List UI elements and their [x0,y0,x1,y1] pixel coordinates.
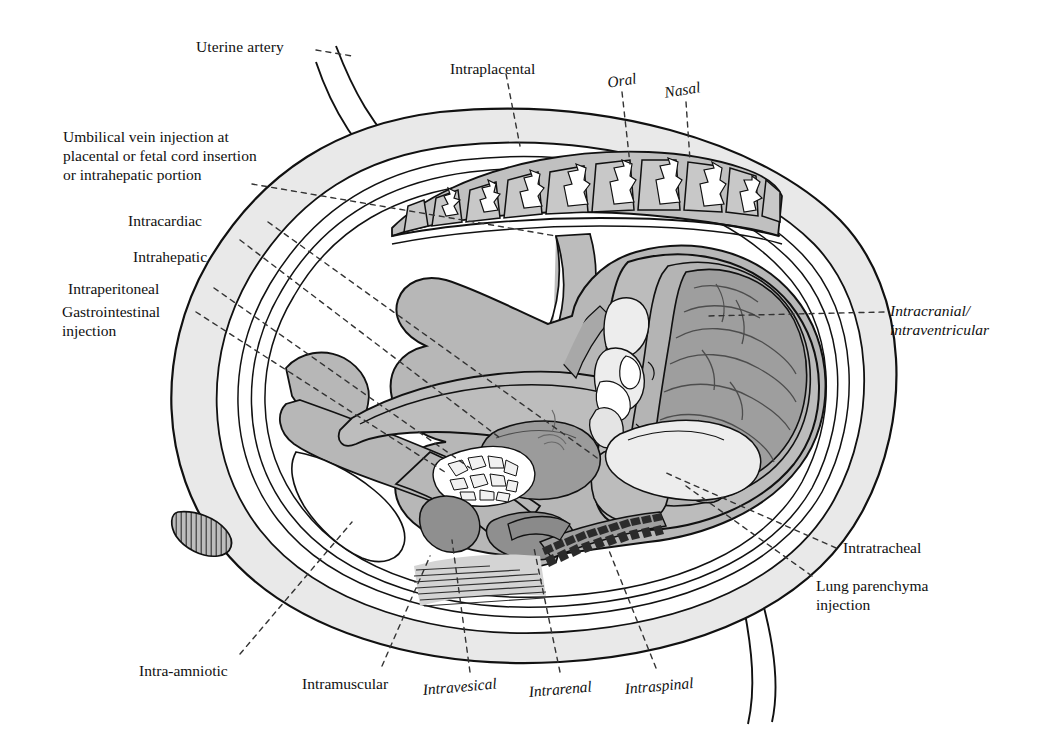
uterine-artery-vessels-lower [744,600,776,724]
label-intramuscular: Intramuscular [302,675,388,694]
label-intracardiac: Intracardiac [128,212,202,231]
anatomical-illustration [0,0,1052,750]
label-intracranial-line2: intraventricular [890,321,989,340]
label-lung-parenchyma-line1: Lung parenchyma [816,577,928,596]
label-intraplacental: Intraplacental [450,60,535,79]
label-lung-parenchyma-line2: injection [816,596,870,615]
label-intraperitoneal: Intraperitoneal [68,280,159,299]
label-intratracheal: Intratracheal [843,539,921,558]
label-umbilical-vein-line2: placental or fetal cord insertion [63,147,257,166]
label-gastrointestinal-line1: Gastrointestinal [62,303,160,322]
leader-uterine-artery [316,50,352,56]
label-gastrointestinal-line2: injection [62,322,116,341]
label-uterine-artery: Uterine artery [196,38,284,57]
label-umbilical-vein-line3: or intrahepatic portion [63,166,202,185]
label-intracranial-line1: Intracranial/ [890,302,970,321]
label-intrahepatic: Intrahepatic [133,248,207,267]
label-intra-amniotic: Intra-amniotic [139,662,228,681]
figure-canvas: Uterine artery Intraplacental Oral Nasal… [0,0,1052,750]
label-umbilical-vein-line1: Umbilical vein injection at [63,128,229,147]
